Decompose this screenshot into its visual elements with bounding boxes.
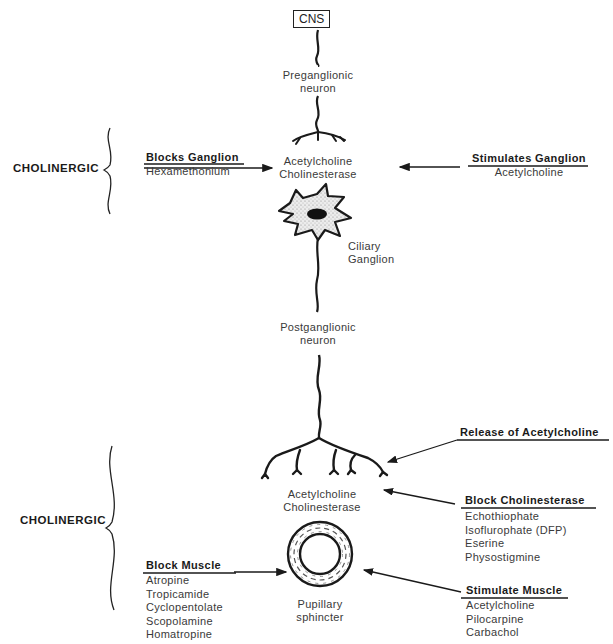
terminal-synapse-line-2: Cholinesterase — [272, 501, 372, 514]
blocks-ganglion-group: Blocks Ganglion Hexamethonium — [146, 151, 239, 178]
release-heading: Release of Acetylcholine — [460, 426, 599, 438]
preganglionic-axon — [316, 96, 319, 132]
ganglion-nucleus — [307, 209, 327, 220]
ganglion-synapse-label: Acetylcholine Cholinesterase — [268, 155, 368, 181]
effector-line-2: sphincter — [280, 611, 360, 624]
preganglionic-neuron-label: Preganglionic neuron — [268, 69, 368, 95]
drug-physostigmine: Physostigmine — [465, 551, 585, 565]
drug-tropicamide: Tropicamide — [146, 588, 223, 602]
block-muscle-heading: Block Muscle — [146, 559, 223, 571]
cns-axon — [316, 30, 318, 66]
drug-acetylcholine: Acetylcholine — [466, 599, 562, 613]
block-cholinesterase-heading: Block Cholinesterase — [465, 494, 585, 506]
ganglion-synapse-line-1: Acetylcholine — [268, 155, 368, 168]
ciliary-line-1: Ciliary — [348, 240, 394, 253]
postganglionic-line-1: Postganglionic — [268, 321, 368, 334]
postganglionic-line-2: neuron — [268, 334, 368, 347]
cns-box: CNS — [293, 10, 330, 28]
stimulates-ganglion-group: Stimulates Ganglion Acetylcholine — [470, 152, 588, 179]
postganglionic-axon-lower — [317, 355, 320, 438]
drug-cyclopentolate: Cyclopentolate — [146, 601, 223, 615]
preganglionic-line-1: Preganglionic — [268, 69, 368, 82]
drug-echothiophate: Echothiophate — [465, 510, 585, 524]
block-cholinesterase-arrow — [384, 490, 455, 504]
drug-scopolamine: Scopolamine — [146, 615, 223, 629]
stimulates-ganglion-drug: Acetylcholine — [470, 166, 588, 179]
effector-line-1: Pupillary — [280, 598, 360, 611]
block-cholinesterase-group: Block Cholinesterase Echothiophate Isofl… — [465, 494, 585, 564]
preganglionic-terminal — [293, 132, 345, 144]
release-arrow — [388, 440, 457, 462]
drug-atropine: Atropine — [146, 574, 223, 588]
pupillary-sphincter-label: Pupillary sphincter — [280, 598, 360, 624]
drug-carbachol: Carbachol — [466, 626, 562, 640]
ciliary-line-2: Ganglion — [348, 253, 394, 266]
block-muscle-list: Atropine Tropicamide Cyclopentolate Scop… — [146, 574, 223, 642]
stimulate-muscle-list: Acetylcholine Pilocarpine Carbachol — [466, 599, 562, 640]
upper-brace — [104, 128, 111, 214]
drug-eserine: Eserine — [465, 537, 585, 551]
block-cholinesterase-list: Echothiophate Isoflurophate (DFP) Eserin… — [465, 510, 585, 564]
cholinergic-label-lower: CHOLINERGIC — [20, 514, 106, 526]
cholinergic-label-upper: CHOLINERGIC — [13, 162, 99, 174]
stimulate-muscle-arrow — [364, 570, 461, 592]
terminal-synapse-line-1: Acetylcholine — [272, 488, 372, 501]
postganglionic-neuron-label: Postganglionic neuron — [268, 321, 368, 347]
postganglionic-axon-upper — [316, 238, 318, 312]
ciliary-ganglion-label: Ciliary Ganglion — [348, 240, 394, 266]
block-muscle-group: Block Muscle Atropine Tropicamide Cyclop… — [146, 559, 223, 642]
pupillary-sphincter-ring — [288, 522, 352, 586]
drug-pilocarpine: Pilocarpine — [466, 613, 562, 627]
drug-isoflurophate: Isoflurophate (DFP) — [465, 524, 585, 538]
stimulate-muscle-group: Stimulate Muscle Acetylcholine Pilocarpi… — [466, 584, 562, 640]
postganglionic-terminal — [262, 438, 387, 478]
stimulates-ganglion-heading: Stimulates Ganglion — [470, 152, 588, 164]
drug-homatropine: Homatropine — [146, 628, 223, 642]
lower-brace — [106, 446, 114, 610]
terminal-synapse-label: Acetylcholine Cholinesterase — [272, 488, 372, 514]
ganglion-synapse-line-2: Cholinesterase — [268, 168, 368, 181]
preganglionic-line-2: neuron — [268, 82, 368, 95]
blocks-ganglion-heading: Blocks Ganglion — [146, 151, 239, 163]
stimulate-muscle-heading: Stimulate Muscle — [466, 584, 562, 596]
blocks-ganglion-drug: Hexamethonium — [146, 165, 239, 178]
